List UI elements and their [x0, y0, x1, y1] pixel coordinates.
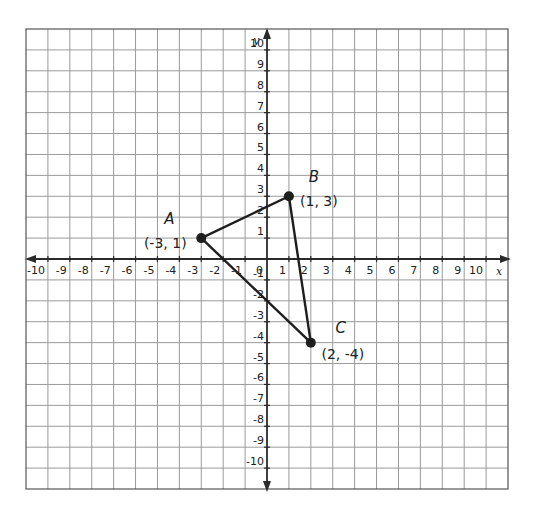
y-tick-label: -9 — [253, 434, 264, 447]
x-tick-label: 1 — [279, 264, 286, 277]
x-tick-label: -2 — [209, 264, 220, 277]
x-tick-label: -9 — [56, 264, 67, 277]
point-b — [284, 191, 294, 201]
y-tick-label: 5 — [257, 141, 264, 154]
x-tick-label: -7 — [100, 264, 111, 277]
x-tick-label: 6 — [388, 264, 395, 277]
y-tick-label: 3 — [257, 183, 264, 196]
coordinate-plane: -10-9-8-7-6-5-4-3-2-112345678910-10-9-8-… — [0, 0, 533, 516]
origin-label: 0 — [256, 264, 263, 277]
y-tick-label: -10 — [246, 455, 264, 468]
y-tick-label: -3 — [253, 309, 264, 322]
y-tick-label: 1 — [257, 225, 264, 238]
y-tick-label: 9 — [257, 58, 264, 71]
point-c-coordinates: (2, -4) — [321, 346, 364, 362]
x-tick-label: 7 — [410, 264, 417, 277]
point-c — [306, 338, 316, 348]
point-a-name: A — [163, 210, 174, 228]
x-tick-label: -3 — [187, 264, 198, 277]
x-tick-label: -10 — [27, 264, 45, 277]
point-c-name: C — [336, 319, 347, 337]
x-tick-label: 3 — [323, 264, 330, 277]
x-tick-label: 4 — [345, 264, 352, 277]
point-a — [196, 233, 206, 243]
x-tick-label: 5 — [367, 264, 374, 277]
y-tick-label: -6 — [253, 371, 264, 384]
x-tick-label: -6 — [122, 264, 133, 277]
x-tick-label: 10 — [469, 264, 483, 277]
y-tick-label: -5 — [253, 351, 264, 364]
point-b-coordinates: (1, 3) — [300, 193, 338, 209]
axes — [25, 28, 511, 492]
y-axis-down-arrow-icon — [263, 481, 271, 492]
x-tick-label: 8 — [432, 264, 439, 277]
x-tick-label: -5 — [143, 264, 154, 277]
y-tick-label: 7 — [257, 100, 264, 113]
y-tick-label: -7 — [253, 392, 264, 405]
y-axis-label: y — [252, 34, 260, 47]
y-tick-label: 4 — [257, 162, 264, 175]
x-tick-label: 9 — [454, 264, 461, 277]
y-tick-label: 8 — [257, 79, 264, 92]
point-b-name: B — [309, 168, 319, 186]
x-tick-label: -4 — [165, 264, 176, 277]
y-tick-label: -8 — [253, 413, 264, 426]
x-axis-label: x — [496, 265, 503, 278]
x-tick-label: -8 — [78, 264, 89, 277]
point-a-coordinates: (-3, 1) — [144, 235, 187, 251]
x-axis-left-arrow-icon — [25, 255, 36, 263]
y-tick-label: -4 — [253, 330, 264, 343]
x-axis-right-arrow-icon — [500, 255, 511, 263]
y-tick-label: 6 — [257, 121, 264, 134]
tick-labels: -10-9-8-7-6-5-4-3-2-112345678910-10-9-8-… — [27, 37, 483, 468]
segment-ca — [201, 238, 311, 343]
y-axis-up-arrow-icon — [263, 28, 271, 39]
